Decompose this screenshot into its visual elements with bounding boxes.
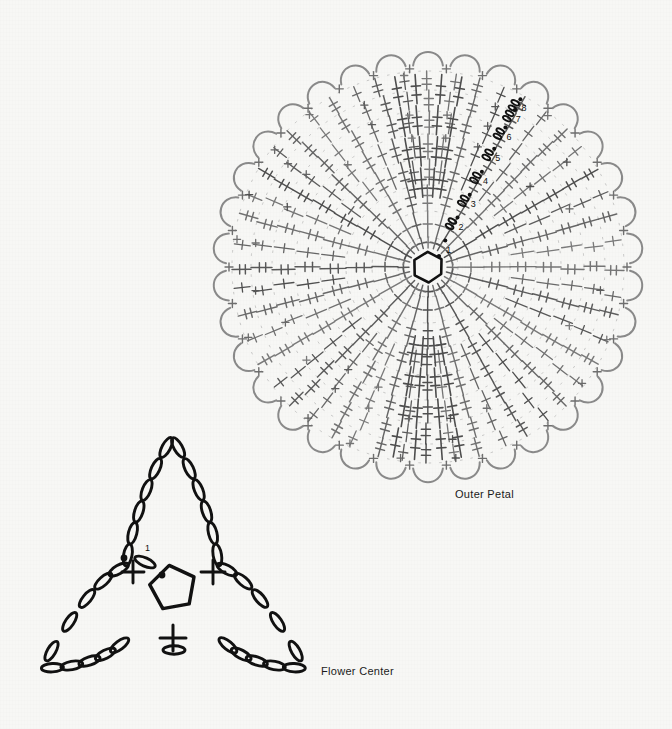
flower-center-round-markers: 1	[145, 543, 150, 553]
round-number: 6	[506, 132, 511, 142]
label-outer-petal: Outer Petal	[455, 488, 514, 500]
round-number: 1	[446, 245, 451, 255]
round-number: 4	[483, 176, 488, 186]
outer-petal-stitches	[225, 65, 631, 469]
round-number: 1	[145, 543, 150, 553]
label-flower-center: Flower Center	[321, 665, 394, 677]
outer-petal-magic-ring	[414, 252, 441, 283]
outer-petal-round-markers: 12345678	[443, 97, 526, 254]
round-number: 3	[471, 199, 476, 209]
diagram-canvas: 12345678 1 Outer Petal Flower Center	[0, 0, 672, 729]
motif-flower-center: 1	[41, 436, 305, 673]
round-number: 2	[459, 222, 464, 232]
flower-center-ring	[150, 565, 194, 608]
round-number: 5	[495, 153, 500, 163]
motif-outer-petal: 12345678	[214, 52, 642, 482]
round-number: 8	[521, 103, 526, 113]
crochet-chart-svg: 12345678 1	[0, 0, 672, 729]
round-number: 7	[516, 114, 521, 124]
